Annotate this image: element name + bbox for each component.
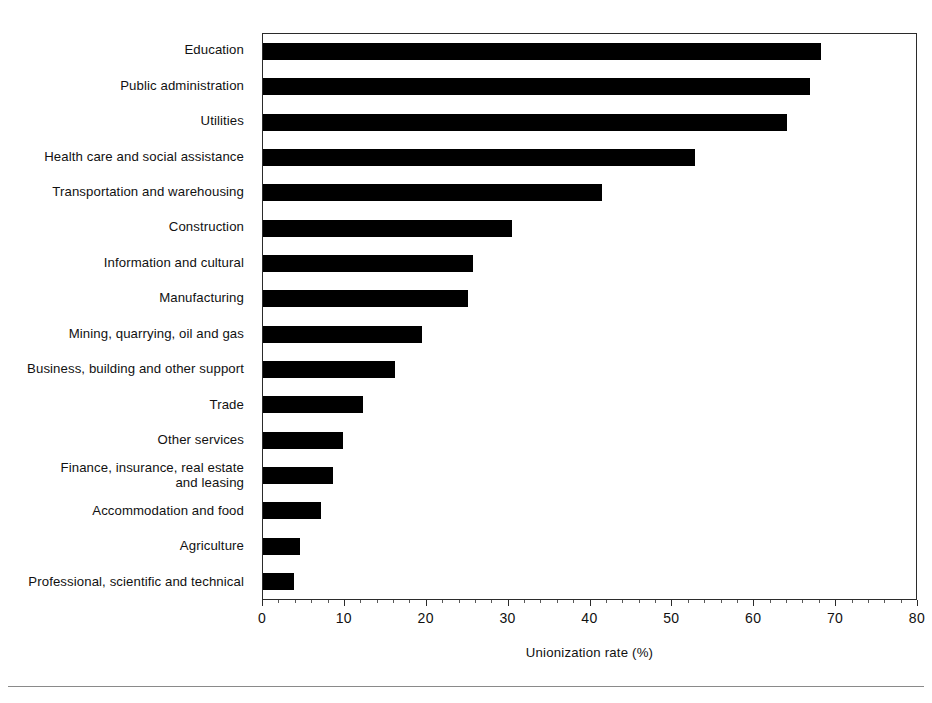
bar bbox=[263, 149, 695, 166]
x-tick-minor bbox=[475, 600, 476, 603]
x-tick-major bbox=[753, 600, 754, 606]
x-tick-major bbox=[671, 600, 672, 606]
bar-row bbox=[263, 317, 916, 352]
x-tick-minor bbox=[311, 600, 312, 603]
bar bbox=[263, 538, 300, 555]
bar-row bbox=[263, 422, 916, 457]
x-tick-label: 40 bbox=[581, 610, 597, 626]
category-label: Transportation and warehousing bbox=[0, 175, 253, 210]
x-tick-minor bbox=[573, 600, 574, 603]
category-label: Education bbox=[0, 33, 253, 68]
x-tick-minor bbox=[704, 600, 705, 603]
bar-row bbox=[263, 246, 916, 281]
bar bbox=[263, 78, 810, 95]
x-tick-label: 80 bbox=[909, 610, 925, 626]
bar bbox=[263, 361, 395, 378]
x-tick-major bbox=[426, 600, 427, 606]
bar-row bbox=[263, 352, 916, 387]
bar bbox=[263, 220, 512, 237]
x-tick-minor bbox=[328, 600, 329, 603]
category-label: Mining, quarrying, oil and gas bbox=[0, 317, 253, 352]
x-tick-major bbox=[835, 600, 836, 606]
x-tick-minor bbox=[655, 600, 656, 603]
bar bbox=[263, 255, 473, 272]
x-tick-minor bbox=[639, 600, 640, 603]
bar-row bbox=[263, 493, 916, 528]
category-label: Trade bbox=[0, 387, 253, 422]
x-tick-label: 0 bbox=[258, 610, 266, 626]
category-label: Other services bbox=[0, 423, 253, 458]
x-tick-label: 10 bbox=[336, 610, 352, 626]
x-tick-minor bbox=[868, 600, 869, 603]
x-axis-ticks bbox=[262, 600, 917, 609]
unionization-rate-bar-chart: EducationPublic administrationUtilitiesH… bbox=[0, 0, 932, 703]
x-tick-label: 20 bbox=[418, 610, 434, 626]
bar-row bbox=[263, 69, 916, 104]
x-tick-minor bbox=[622, 600, 623, 603]
x-tick-minor bbox=[491, 600, 492, 603]
x-tick-minor bbox=[884, 600, 885, 603]
bar bbox=[263, 573, 294, 590]
x-tick-minor bbox=[606, 600, 607, 603]
bar bbox=[263, 326, 422, 343]
x-tick-major bbox=[590, 600, 591, 606]
x-tick-minor bbox=[819, 600, 820, 603]
bar-row bbox=[263, 140, 916, 175]
category-label: Utilities bbox=[0, 104, 253, 139]
x-tick-minor bbox=[901, 600, 902, 603]
category-label: Agriculture bbox=[0, 529, 253, 564]
x-tick-minor bbox=[393, 600, 394, 603]
footer-divider bbox=[8, 686, 924, 687]
category-label: Health care and social assistance bbox=[0, 139, 253, 174]
x-axis-tick-labels: 01020304050607080 bbox=[262, 610, 917, 632]
x-tick-minor bbox=[442, 600, 443, 603]
x-tick-major bbox=[508, 600, 509, 606]
x-tick-minor bbox=[737, 600, 738, 603]
category-label: Construction bbox=[0, 210, 253, 245]
x-tick-minor bbox=[721, 600, 722, 603]
category-label: Accommodation and food bbox=[0, 494, 253, 529]
x-tick-minor bbox=[786, 600, 787, 603]
x-tick-minor bbox=[377, 600, 378, 603]
category-axis-labels: EducationPublic administrationUtilitiesH… bbox=[0, 33, 253, 600]
x-tick-major bbox=[917, 600, 918, 606]
bar-row bbox=[263, 564, 916, 599]
bar bbox=[263, 290, 468, 307]
x-tick-minor bbox=[540, 600, 541, 603]
x-tick-label: 50 bbox=[663, 610, 679, 626]
category-label: Information and cultural bbox=[0, 246, 253, 281]
plot-wrapper: EducationPublic administrationUtilitiesH… bbox=[0, 0, 932, 640]
x-tick-label: 60 bbox=[745, 610, 761, 626]
x-tick-major bbox=[344, 600, 345, 606]
x-tick-minor bbox=[688, 600, 689, 603]
category-label: Business, building and other support bbox=[0, 352, 253, 387]
bar-row bbox=[263, 175, 916, 210]
bar-row bbox=[263, 528, 916, 563]
bar-row bbox=[263, 387, 916, 422]
bar bbox=[263, 432, 343, 449]
bar bbox=[263, 396, 363, 413]
bar-row bbox=[263, 211, 916, 246]
bar-row bbox=[263, 105, 916, 140]
x-tick-minor bbox=[278, 600, 279, 603]
x-tick-label: 70 bbox=[827, 610, 843, 626]
bar bbox=[263, 502, 321, 519]
bar bbox=[263, 43, 821, 60]
x-tick-major bbox=[262, 600, 263, 606]
x-tick-minor bbox=[557, 600, 558, 603]
bar bbox=[263, 114, 787, 131]
x-tick-minor bbox=[802, 600, 803, 603]
plot-area bbox=[262, 33, 917, 600]
x-tick-minor bbox=[524, 600, 525, 603]
x-tick-minor bbox=[459, 600, 460, 603]
x-tick-minor bbox=[770, 600, 771, 603]
bar bbox=[263, 467, 333, 484]
x-tick-minor bbox=[852, 600, 853, 603]
x-axis-title: Unionization rate (%) bbox=[262, 645, 917, 660]
x-tick-label: 30 bbox=[499, 610, 515, 626]
bar-row bbox=[263, 34, 916, 69]
x-tick-minor bbox=[360, 600, 361, 603]
category-label: Finance, insurance, real estate and leas… bbox=[0, 458, 253, 493]
bar-row bbox=[263, 458, 916, 493]
bar bbox=[263, 184, 602, 201]
